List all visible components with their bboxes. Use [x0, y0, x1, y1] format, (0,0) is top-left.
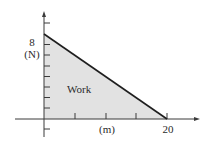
x-axis-arrow-icon [194, 117, 200, 121]
area-label: Work [67, 83, 92, 95]
y-unit-label: (N) [24, 48, 40, 61]
x-unit-label: (m) [99, 123, 115, 136]
work-diagram: 8 (N) Work (m) 20 [0, 0, 211, 147]
x-value-label: 20 [163, 123, 175, 135]
y-value-label: 8 [29, 36, 35, 48]
y-axis-arrow-icon [42, 11, 46, 17]
